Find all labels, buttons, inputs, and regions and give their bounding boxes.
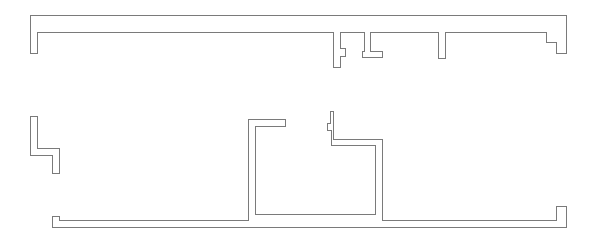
top-wall-section [30, 15, 566, 67]
left-l-wall-section [30, 116, 59, 173]
bottom-wall-section [52, 111, 566, 227]
floor-plan-diagram [0, 0, 596, 244]
